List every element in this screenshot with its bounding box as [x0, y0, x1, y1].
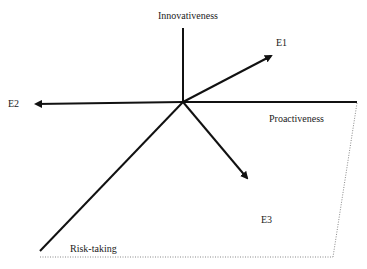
- e3-label: E3: [261, 214, 272, 225]
- diagram-canvas: [0, 0, 367, 269]
- proactiveness-label: Proactiveness: [269, 113, 324, 124]
- e1-label: E1: [276, 37, 287, 48]
- dotted-right-edge: [333, 103, 357, 257]
- e2-label: E2: [8, 98, 19, 109]
- e3-arrow: [183, 102, 247, 178]
- risk-taking-label: Risk-taking: [70, 243, 117, 254]
- e1-arrow: [183, 56, 271, 102]
- risk-taking-axis: [40, 102, 183, 251]
- innovativeness-label: Innovativeness: [158, 10, 218, 21]
- e2-arrow: [36, 102, 183, 104]
